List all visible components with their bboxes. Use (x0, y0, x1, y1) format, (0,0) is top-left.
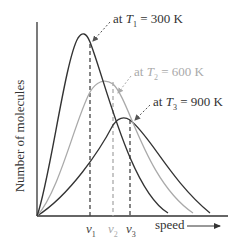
tick-v1: v1 (86, 221, 96, 239)
x-axis-label: speed (155, 217, 185, 233)
curve-t1 (37, 34, 168, 216)
label-t2: at T2 = 600 K (134, 64, 204, 82)
t3-arrow (135, 105, 150, 120)
tick-v3: v3 (126, 221, 136, 239)
t1-arrow (93, 22, 110, 41)
t2-arrow (118, 76, 131, 93)
label-t3: at T3 = 900 K (153, 94, 223, 112)
label-t1: at T1 = 300 K (113, 11, 183, 29)
maxwell-boltzmann-chart: at T1 = 300 K at T2 = 600 K at T3 = 900 … (0, 0, 249, 251)
curve-t3 (37, 118, 210, 216)
y-axis-label: Number of molecules (12, 66, 28, 206)
tick-v2: v2 (108, 221, 118, 239)
chart-canvas (0, 0, 249, 251)
